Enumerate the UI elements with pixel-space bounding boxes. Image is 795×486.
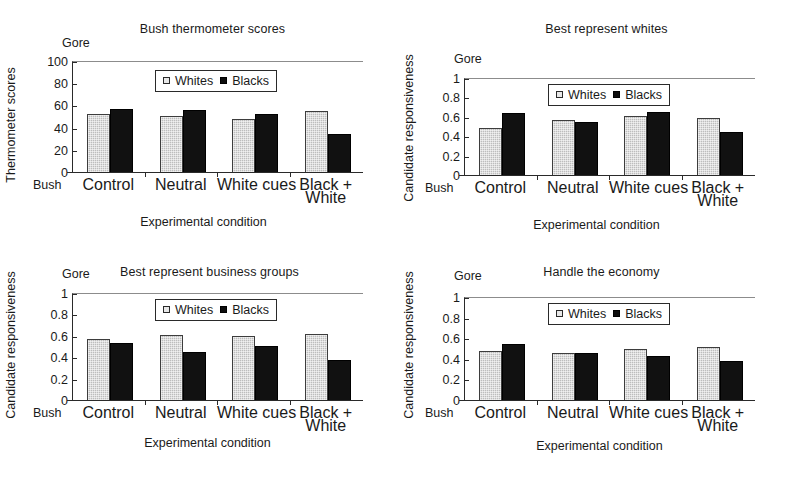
bar-group xyxy=(683,298,756,401)
y-axis-label: Candidate responsiveness xyxy=(400,265,418,425)
bar-group xyxy=(73,62,146,173)
bar-whites xyxy=(305,111,328,173)
x-axis-label: Experimental condition xyxy=(398,218,795,232)
y-axis-label-text: Candidate responsiveness xyxy=(402,271,416,418)
y-axis-tick-label: 1 xyxy=(453,73,465,86)
y-axis-label-text: Candidate responsiveness xyxy=(4,271,18,418)
chart-legend: WhitesBlacks xyxy=(155,70,277,92)
bar-group xyxy=(465,298,538,401)
y-axis-tick-label: 0.6 xyxy=(443,333,465,346)
bar-whites xyxy=(479,128,502,177)
chart-panel-handle_the_economy: Handle the economyCandidate responsivene… xyxy=(398,243,795,486)
x-axis-line xyxy=(67,400,363,401)
y-axis-tick-label: 40 xyxy=(54,122,73,135)
x-axis-category-label-line1: Neutral xyxy=(547,404,599,421)
bar-blacks xyxy=(575,353,598,401)
legend-label-whites: Whites xyxy=(175,74,213,88)
y-axis-tick-label: 0.8 xyxy=(443,92,465,105)
y-axis-tick-label: 60 xyxy=(54,100,73,113)
y-axis-tick-label: 0.4 xyxy=(443,354,465,367)
x-axis-category-label: Neutral xyxy=(145,406,218,419)
x-axis-category-label-line1: White cues xyxy=(609,179,688,196)
bar-blacks xyxy=(575,122,598,176)
y-axis-tick-label: 80 xyxy=(54,78,73,91)
x-axis-tick-mark xyxy=(537,175,538,180)
axis-bottom-annotation-bush: Bush xyxy=(33,178,62,192)
x-axis-category-label-line1: Control xyxy=(474,404,526,421)
legend-swatch-whites-icon xyxy=(556,310,563,317)
axis-top-annotation-gore: Gore xyxy=(62,267,90,281)
x-axis-line xyxy=(459,400,755,401)
x-axis-category-label: Control xyxy=(464,406,537,419)
y-axis-tick-label: 0.8 xyxy=(443,312,465,325)
y-axis-tick-label: 0.2 xyxy=(443,374,465,387)
y-axis-tick-label: 0.6 xyxy=(51,331,73,344)
bar-group xyxy=(291,62,364,173)
bar-blacks xyxy=(720,361,743,401)
x-axis-category-label: Black +White xyxy=(290,406,363,432)
x-axis-category-label: Control xyxy=(72,406,145,419)
bar-blacks xyxy=(255,114,278,173)
legend-label-blacks: Blacks xyxy=(232,303,269,317)
x-axis-category-label: Black +White xyxy=(682,181,755,207)
legend-swatch-whites-icon xyxy=(163,306,170,313)
chart-title: Best represent whites xyxy=(398,22,795,36)
x-axis-category-label: Black +White xyxy=(290,178,363,204)
legend-swatch-blacks-icon xyxy=(220,306,227,313)
x-axis-category-label-line1: White cues xyxy=(217,404,296,421)
axis-top-annotation-gore: Gore xyxy=(454,269,482,283)
chart-title: Bush thermometer scores xyxy=(0,22,397,36)
y-axis-tick-label: 0.4 xyxy=(443,131,465,144)
y-axis-tick-label: 100 xyxy=(47,56,73,69)
legend-label-blacks: Blacks xyxy=(232,74,269,88)
bar-group xyxy=(73,294,146,401)
chart-panel-best_represent_business_groups: Best represent business groupsCandidate … xyxy=(0,243,397,486)
bar-whites xyxy=(552,353,575,401)
legend-label-whites: Whites xyxy=(568,307,606,321)
chart-title: Best represent business groups xyxy=(0,265,397,279)
x-axis-tick-mark xyxy=(537,400,538,405)
bar-whites xyxy=(305,334,328,401)
legend-label-blacks: Blacks xyxy=(625,88,662,102)
x-axis-tick-mark xyxy=(145,172,146,177)
x-axis-category-label-line1: White cues xyxy=(217,176,296,193)
bar-whites xyxy=(87,339,110,401)
x-axis-category-label-line1: White cues xyxy=(609,404,688,421)
x-axis-category-label: Neutral xyxy=(145,178,218,191)
y-axis-tick-label: 20 xyxy=(54,145,73,158)
bar-blacks xyxy=(647,112,670,176)
bar-group xyxy=(683,79,756,176)
y-axis-tick-label: 0.6 xyxy=(443,112,465,125)
x-axis-label: Experimental condition xyxy=(0,436,397,450)
legend-entry-blacks: Blacks xyxy=(220,74,269,88)
y-axis-label: Candidate responsiveness xyxy=(2,265,20,425)
x-axis-line xyxy=(67,172,363,173)
y-axis-label: Thermometer scores xyxy=(2,45,20,205)
bar-blacks xyxy=(502,344,525,401)
bar-whites xyxy=(232,119,255,173)
axis-top-annotation-gore: Gore xyxy=(62,36,90,50)
x-axis-category-label-line1: Control xyxy=(82,404,134,421)
legend-swatch-whites-icon xyxy=(163,77,170,84)
bar-blacks xyxy=(110,109,133,173)
legend-entry-whites: Whites xyxy=(556,88,606,102)
y-axis-tick-label: 0.4 xyxy=(51,352,73,365)
y-axis-tick-label: 1 xyxy=(61,288,73,301)
bar-whites xyxy=(232,336,255,401)
bar-whites xyxy=(552,120,575,176)
legend-entry-whites: Whites xyxy=(163,303,213,317)
x-axis-category-label: White cues xyxy=(217,406,290,419)
y-axis-tick-label: 0.2 xyxy=(51,373,73,386)
chart-legend: WhitesBlacks xyxy=(548,84,670,106)
legend-swatch-blacks-icon xyxy=(613,91,620,98)
bar-group xyxy=(291,294,364,401)
x-axis-label: Experimental condition xyxy=(398,439,795,453)
legend-entry-whites: Whites xyxy=(163,74,213,88)
x-axis-category-label-line1: Neutral xyxy=(547,179,599,196)
legend-entry-blacks: Blacks xyxy=(220,303,269,317)
x-axis-category-label-line1: Neutral xyxy=(155,404,207,421)
x-axis-line xyxy=(459,175,755,176)
bar-group xyxy=(465,79,538,176)
bar-whites xyxy=(160,116,183,173)
x-axis-category-label: White cues xyxy=(609,406,682,419)
